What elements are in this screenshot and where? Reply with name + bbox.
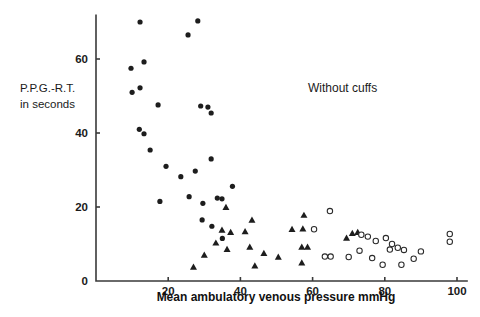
scatter-plot-svg: 20406080100 0204060 Mean ambulatory veno… xyxy=(0,0,480,317)
data-point-triangle xyxy=(299,225,306,231)
series-filled-circle xyxy=(128,18,235,241)
data-point-open-circle xyxy=(369,255,374,260)
data-point-open-circle xyxy=(395,245,400,250)
data-point-triangle xyxy=(227,229,234,235)
data-point-filled-circle xyxy=(193,169,198,174)
data-point-filled-circle xyxy=(178,174,183,179)
axes: 20406080100 0204060 xyxy=(75,15,468,297)
data-point-triangle xyxy=(289,226,296,232)
data-point-filled-circle xyxy=(215,196,220,201)
data-point-filled-circle xyxy=(230,184,235,189)
data-point-open-circle xyxy=(447,231,452,236)
data-point-filled-circle xyxy=(137,127,142,132)
data-point-filled-circle xyxy=(195,18,200,23)
data-point-open-circle xyxy=(383,235,388,240)
data-point-open-circle xyxy=(399,262,404,267)
series-filled-triangle xyxy=(190,204,361,270)
chart-figure: 20406080100 0204060 Mean ambulatory veno… xyxy=(0,0,480,317)
data-point-filled-circle xyxy=(141,59,146,64)
data-point-filled-circle xyxy=(200,217,205,222)
chart-annotation: Without cuffs xyxy=(308,81,377,95)
axis-lines xyxy=(96,15,468,281)
data-point-open-circle xyxy=(365,234,370,239)
data-point-triangle xyxy=(190,263,197,269)
data-point-open-circle xyxy=(327,208,332,213)
data-point-filled-circle xyxy=(155,102,160,107)
y-axis-title-line1: P.P.G.-R.T. xyxy=(20,82,75,94)
data-point-filled-circle xyxy=(128,66,133,71)
data-point-open-circle xyxy=(418,249,423,254)
data-point-open-circle xyxy=(411,256,416,261)
data-point-triangle xyxy=(212,239,219,245)
data-point-triangle xyxy=(343,235,350,241)
data-point-filled-circle xyxy=(209,156,214,161)
data-point-open-circle xyxy=(373,238,378,243)
data-point-triangle xyxy=(300,212,307,218)
data-point-triangle xyxy=(201,252,208,258)
data-point-open-circle xyxy=(380,262,385,267)
data-point-triangle xyxy=(298,259,305,265)
data-point-filled-circle xyxy=(137,19,142,24)
data-point-open-circle xyxy=(311,227,316,232)
data-point-triangle xyxy=(304,243,311,249)
data-point-filled-circle xyxy=(185,32,190,37)
data-point-triangle xyxy=(246,243,253,249)
data-point-filled-circle xyxy=(148,147,153,152)
y-axis-title-line2: in seconds xyxy=(20,98,75,110)
data-point-triangle xyxy=(242,228,249,234)
series-open-circle xyxy=(311,208,452,267)
data-point-filled-circle xyxy=(157,199,162,204)
y-tick-label: 0 xyxy=(82,275,88,287)
data-point-open-circle xyxy=(359,232,364,237)
data-point-filled-circle xyxy=(209,110,214,115)
data-point-triangle xyxy=(218,226,225,232)
data-point-triangle xyxy=(298,243,305,249)
data-point-open-circle xyxy=(328,254,333,259)
data-point-filled-circle xyxy=(200,201,205,206)
data-point-triangle xyxy=(251,262,258,268)
data-point-open-circle xyxy=(357,248,362,253)
data-point-open-circle xyxy=(447,239,452,244)
data-point-filled-circle xyxy=(198,103,203,108)
data-point-filled-circle xyxy=(137,85,142,90)
data-point-open-circle xyxy=(387,247,392,252)
data-point-open-circle xyxy=(322,254,327,259)
data-point-filled-circle xyxy=(130,90,135,95)
data-point-filled-circle xyxy=(205,105,210,110)
data-point-triangle xyxy=(248,216,255,222)
y-tick-label: 20 xyxy=(75,201,88,213)
data-point-triangle xyxy=(222,204,229,210)
data-point-filled-circle xyxy=(209,224,214,229)
data-point-triangle xyxy=(349,230,356,236)
x-axis-title: Mean ambulatory venous pressure mmHg xyxy=(157,290,396,304)
data-point-filled-circle xyxy=(220,236,225,241)
data-point-triangle xyxy=(275,253,282,259)
data-point-open-circle xyxy=(346,254,351,259)
data-point-filled-circle xyxy=(163,164,168,169)
data-point-open-circle xyxy=(389,241,394,246)
data-point-filled-circle xyxy=(187,194,192,199)
x-tick-label: 100 xyxy=(447,285,466,297)
y-tick-label: 40 xyxy=(75,127,88,139)
data-point-triangle xyxy=(260,250,267,256)
y-tick-label: 60 xyxy=(75,53,88,65)
data-point-triangle xyxy=(224,246,231,252)
data-point-filled-circle xyxy=(219,196,224,201)
data-point-filled-circle xyxy=(141,131,146,136)
data-points xyxy=(128,18,452,269)
data-point-open-circle xyxy=(401,247,406,252)
